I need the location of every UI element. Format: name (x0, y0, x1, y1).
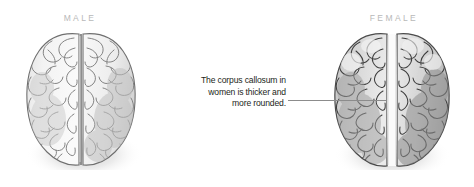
brain-illustration-male (18, 28, 144, 170)
annotation-line-2: women is thicker and (168, 87, 286, 99)
gender-label-female: FEMALE (314, 13, 474, 23)
corpus-callosum-band-female (387, 34, 397, 166)
annotation-line-1: The corpus callosum in (168, 75, 286, 87)
annotation-corpus-callosum: The corpus callosum in women is thicker … (168, 75, 286, 110)
brain-comparison-figure: MALE FEMALE (0, 0, 474, 187)
annotation-leader-line (288, 100, 386, 101)
brain-illustration-female (329, 28, 455, 170)
annotation-line-3: more rounded. (168, 98, 286, 110)
gender-label-male: MALE (0, 13, 160, 23)
